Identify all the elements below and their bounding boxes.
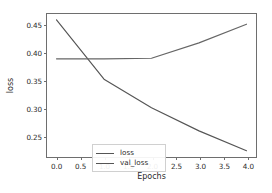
- y-axis-label: loss: [6, 13, 16, 158]
- y-tick-label: 0.45: [26, 21, 42, 30]
- x-tick-label: 3.5: [219, 162, 230, 171]
- chart-legend: loss val_loss: [92, 144, 166, 172]
- y-tick-label: 0.35: [26, 77, 42, 86]
- y-axis-label-text: loss: [7, 78, 16, 93]
- x-tick-mark: [81, 157, 82, 160]
- x-tick-mark: [200, 157, 201, 160]
- series-line-loss: [56, 20, 246, 151]
- x-axis-label-text: Epochs: [137, 172, 166, 181]
- x-tick-mark: [248, 157, 249, 160]
- legend-label-loss: loss: [120, 148, 134, 158]
- legend-swatch-loss: [96, 153, 114, 154]
- y-tick-mark: [44, 81, 47, 82]
- plot-axes: 0.250.300.350.400.45 0.00.51.01.52.02.53…: [46, 13, 257, 158]
- plot-lines: [47, 14, 256, 157]
- legend-item-val-loss: val_loss: [96, 158, 161, 168]
- x-tick-label: 2.5: [171, 162, 182, 171]
- y-tick-mark: [44, 53, 47, 54]
- y-tick-label: 0.25: [26, 132, 42, 141]
- y-tick-mark: [44, 137, 47, 138]
- y-tick-mark: [44, 25, 47, 26]
- legend-swatch-val-loss: [96, 163, 114, 164]
- x-tick-mark: [224, 157, 225, 160]
- y-tick-mark: [44, 109, 47, 110]
- x-tick-label: 3.0: [195, 162, 206, 171]
- figure-canvas: loss 0.250.300.350.400.45 0.00.51.01.52.…: [0, 0, 272, 193]
- y-tick-label: 0.30: [26, 105, 42, 114]
- legend-item-loss: loss: [96, 148, 161, 158]
- x-tick-mark: [57, 157, 58, 160]
- x-tick-label: 0.5: [75, 162, 86, 171]
- legend-label-val-loss: val_loss: [120, 158, 148, 168]
- x-tick-label: 0.0: [51, 162, 62, 171]
- x-axis-label: Epochs: [46, 172, 257, 181]
- x-tick-mark: [176, 157, 177, 160]
- series-line-val-loss: [56, 24, 246, 59]
- x-tick-label: 4.0: [243, 162, 254, 171]
- y-tick-label: 0.40: [26, 49, 42, 58]
